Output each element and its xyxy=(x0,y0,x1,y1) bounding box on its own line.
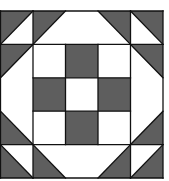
quilt-block-diagram xyxy=(0,0,169,181)
light-square xyxy=(33,111,66,144)
dark-square xyxy=(33,78,66,111)
dark-square xyxy=(66,44,99,77)
light-square xyxy=(66,78,99,111)
dark-square xyxy=(66,111,99,144)
dark-square xyxy=(98,78,131,111)
light-square xyxy=(33,44,66,77)
center-nine-patch xyxy=(33,44,131,144)
light-square xyxy=(98,111,131,144)
light-square xyxy=(98,44,131,77)
